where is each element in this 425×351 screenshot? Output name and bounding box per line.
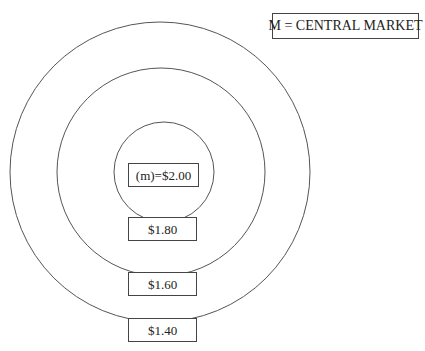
inner-ring-price-text: $1.80	[148, 223, 177, 236]
middle-ring-price-label: $1.60	[128, 272, 197, 296]
center-price-text: (m)=$2.00	[136, 169, 191, 182]
legend-text: M = CENTRAL MARKET	[269, 19, 423, 33]
outer-ring-price-text: $1.40	[148, 324, 177, 337]
outer-ring-price-label: $1.40	[128, 318, 197, 342]
center-price-label: (m)=$2.00	[128, 163, 199, 187]
middle-ring-price-text: $1.60	[148, 278, 177, 291]
concentric-price-rings	[0, 0, 425, 351]
inner-ring-price-label: $1.80	[128, 217, 197, 241]
legend-central-market: M = CENTRAL MARKET	[272, 13, 419, 39]
